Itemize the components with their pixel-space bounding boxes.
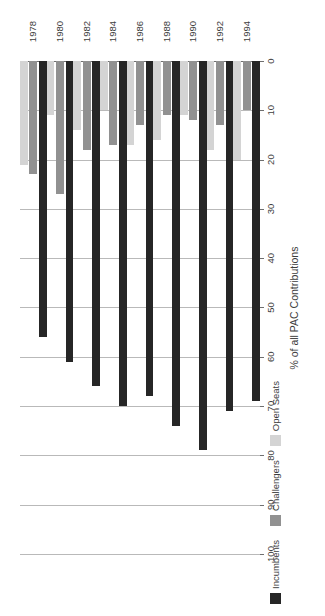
bar	[56, 61, 64, 194]
bar	[252, 61, 260, 401]
bar-row	[207, 61, 215, 554]
bar-group	[207, 61, 234, 554]
bar-row	[199, 61, 207, 554]
bar-row	[119, 61, 127, 554]
bar-group	[20, 61, 47, 554]
axis-tick-label: 100	[266, 546, 276, 562]
bar-groups	[20, 61, 260, 554]
bar-row	[66, 61, 74, 554]
bar-row	[216, 61, 224, 554]
rotated-figure-wrapper: IncumbentsChallengersOpen Seats 01020304…	[0, 0, 325, 616]
bar-row	[189, 61, 197, 554]
bar	[29, 61, 37, 174]
bar	[189, 61, 197, 120]
bar	[243, 61, 251, 110]
bar-row	[83, 61, 91, 554]
axis-tick	[260, 505, 264, 506]
bar-row	[100, 61, 108, 554]
category-label: 1992	[215, 21, 225, 42]
legend-entry: Open Seats	[270, 381, 281, 446]
category-label: 1990	[189, 21, 199, 42]
bar-group	[153, 61, 180, 554]
category-label: 1986	[135, 21, 145, 42]
axis-tick	[260, 258, 264, 259]
axis-tick-label: 40	[266, 253, 276, 264]
axis-tick	[260, 308, 264, 309]
bar	[146, 61, 154, 396]
chart-legend: IncumbentsChallengersOpen Seats	[270, 381, 281, 604]
axis-tick	[260, 455, 264, 456]
axis-tick-label: 10	[266, 105, 276, 116]
bar-row	[180, 61, 188, 554]
axis-tick-label: 20	[266, 154, 276, 165]
bar	[109, 61, 117, 145]
bar-group	[100, 61, 127, 554]
axis-tick-label: 30	[266, 204, 276, 215]
bar-row	[20, 61, 28, 554]
bar	[100, 61, 108, 110]
bar	[172, 61, 180, 426]
axis-tick-label: 50	[266, 302, 276, 313]
bar-row	[56, 61, 64, 554]
bar	[153, 61, 161, 140]
bar-row	[233, 61, 241, 554]
bar-row	[29, 61, 37, 554]
bar	[127, 61, 135, 145]
bar	[226, 61, 234, 411]
category-label: 1980	[55, 21, 65, 42]
axis-tick	[260, 160, 264, 161]
axis-tick	[260, 110, 264, 111]
bar	[66, 61, 74, 362]
bar-group	[233, 61, 260, 554]
bar-group	[47, 61, 74, 554]
bar-row	[109, 61, 117, 554]
bar-row	[243, 61, 251, 554]
axis-tick-label: 90	[266, 499, 276, 510]
bar	[207, 61, 215, 150]
legend-swatch-icon	[270, 593, 281, 604]
bar	[199, 61, 207, 450]
bar	[39, 61, 47, 337]
bar-group	[180, 61, 207, 554]
axis-tick-label: 0	[266, 58, 276, 63]
bar-row	[73, 61, 81, 554]
bar-row	[127, 61, 135, 554]
bar-row	[163, 61, 171, 554]
bar-row	[39, 61, 47, 554]
bar	[119, 61, 127, 406]
bar	[83, 61, 91, 150]
gridline	[20, 554, 260, 555]
value-axis-title: % of all PAC Contributions	[288, 0, 300, 616]
axis-tick	[260, 554, 264, 555]
legend-swatch-icon	[270, 435, 281, 446]
bar	[180, 61, 188, 115]
bar-row	[153, 61, 161, 554]
category-label: 1984	[109, 21, 119, 42]
bar	[216, 61, 224, 125]
legend-swatch-icon	[270, 515, 281, 526]
bar	[163, 61, 171, 115]
category-label: 1994	[242, 21, 252, 42]
axis-tick-label: 80	[266, 450, 276, 461]
bar	[233, 61, 241, 160]
bar-row	[92, 61, 100, 554]
bar	[73, 61, 81, 130]
category-label: 1978	[29, 21, 39, 42]
plot-area	[20, 61, 260, 554]
category-label: 1982	[82, 21, 92, 42]
legend-entry: Challengers	[270, 460, 281, 526]
bar-row	[136, 61, 144, 554]
axis-tick	[260, 209, 264, 210]
bar-row	[47, 61, 55, 554]
bar-row	[252, 61, 260, 554]
axis-tick	[260, 61, 264, 62]
bar-group	[73, 61, 100, 554]
axis-tick	[260, 357, 264, 358]
category-label: 1988	[162, 21, 172, 42]
axis-tick-label: 60	[266, 352, 276, 363]
chart-figure: IncumbentsChallengersOpen Seats 01020304…	[0, 0, 325, 616]
bar-row	[226, 61, 234, 554]
axis-tick-label: 70	[266, 401, 276, 412]
bar	[47, 61, 55, 115]
bar-row	[172, 61, 180, 554]
